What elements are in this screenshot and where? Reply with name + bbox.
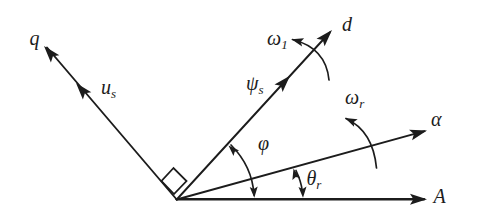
omega-1-label: ω1 — [267, 27, 288, 52]
omega-r-label: ωr — [345, 86, 365, 111]
q-axis-label: q — [30, 27, 40, 50]
us-vector-label: us — [101, 76, 116, 101]
q-axis-line — [47, 48, 177, 200]
omega-r-rotation-arrow — [346, 119, 377, 169]
omega-1-rotation-arrow — [293, 40, 330, 81]
vector-diagram-canvas: q us d ψs ω1 ωr φ θr α A — [0, 0, 477, 214]
reference-frame-diagram: q us d ψs ω1 ωr φ θr α A — [0, 0, 477, 214]
right-angle-marker — [162, 168, 187, 194]
psi-s-vector-label: ψs — [246, 72, 263, 97]
alpha-axis-label: α — [431, 108, 442, 130]
d-axis-label: d — [342, 13, 353, 35]
theta-r-angle-label: θr — [307, 167, 323, 192]
a-axis-label: A — [432, 185, 447, 207]
phi-angle-label: φ — [258, 132, 269, 155]
